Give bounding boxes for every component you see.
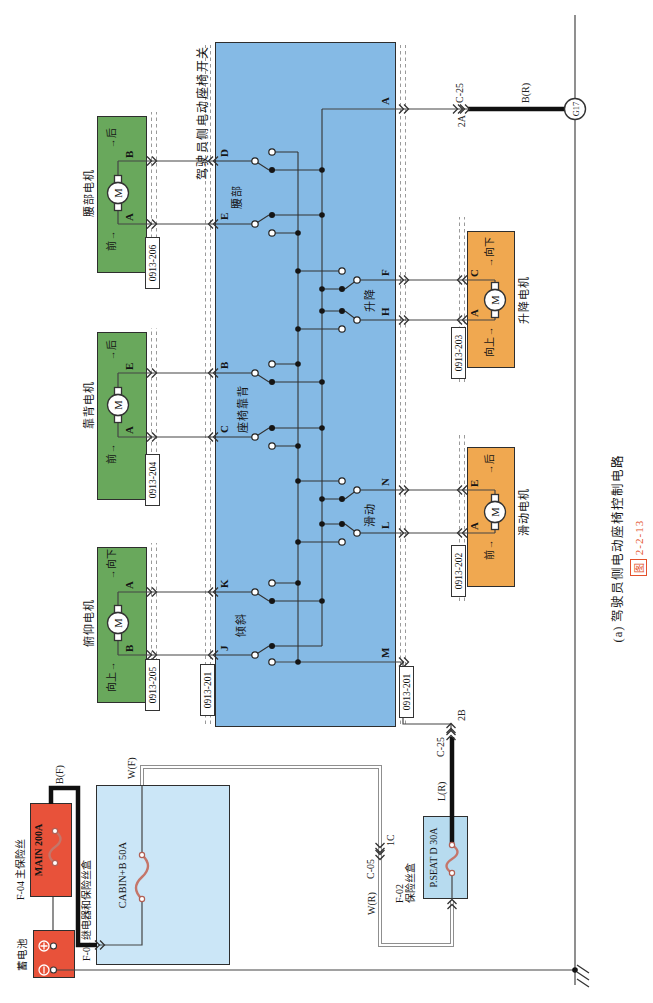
wire-label-wf: W(F) xyxy=(126,757,137,779)
relay-box-fuse-name: CABIN+B 50A xyxy=(117,805,129,945)
wire-label-br: B(R) xyxy=(520,83,531,103)
seat-switch-title: 驾驶员侧电动座椅开关 xyxy=(197,45,210,305)
dir-arrow-icon: → xyxy=(107,138,117,149)
motor-name-lift: 升降电机 xyxy=(518,248,530,352)
battery-label: 蓄电池 xyxy=(17,922,29,986)
motor-connector-lift: 0913-203 xyxy=(451,327,466,379)
terminal-D: D xyxy=(218,149,230,157)
motor-recline-pin-B: B xyxy=(123,645,135,652)
dir-arrow-icon: → xyxy=(107,569,117,580)
motor-connector-lumbar: 0913-206 xyxy=(145,237,160,289)
seat-fuse-box-title-line1: F-02 xyxy=(394,884,405,903)
motor-name-backrest: 靠背电机 xyxy=(83,353,95,457)
dir-lumbar-rear: →后 xyxy=(103,128,118,149)
dir-recline-down: →向下 xyxy=(103,549,118,580)
main-fuse-name: MAIN 200A xyxy=(33,805,44,895)
battery-symbols xyxy=(39,941,57,975)
figure-caption: (a) 驾驶员侧电动座椅控制电路 xyxy=(607,393,626,703)
dir-backrest-front: 前→ xyxy=(103,443,118,503)
dir-arrow-icon: → xyxy=(485,326,495,337)
dir-backrest-rear: →后 xyxy=(103,340,118,361)
dir-arrow-icon: → xyxy=(485,464,495,475)
diagram-stage: M M M M M G17 xyxy=(0,0,653,1003)
connector-c25-seat-name: C-25 xyxy=(435,737,446,757)
relay-box-title: F-01 继电器和保险丝盒 xyxy=(81,860,92,961)
wiring-svg: M M M M M G17 xyxy=(0,0,653,1003)
dir-lumbar-front: 前→ xyxy=(103,230,118,290)
switch-connector-label-top: 0913-201 xyxy=(200,664,215,716)
motor-name-slide: 滑动电机 xyxy=(518,460,530,564)
terminal-B: B xyxy=(218,362,230,369)
terminal-N: N xyxy=(379,478,391,486)
motor-connector-recline-text: 0913-205 xyxy=(148,667,158,703)
motor-connector-backrest: 0913-204 xyxy=(145,454,160,506)
dir-text: 后 xyxy=(106,340,117,350)
wire-label-bf: B(F) xyxy=(54,765,65,784)
motor-m-lift: M xyxy=(490,295,501,305)
wire-label-lr: L(R) xyxy=(436,782,447,801)
terminal-A: A xyxy=(379,97,391,105)
motor-name-lumbar: 腰部电机 xyxy=(83,141,95,245)
motor-m-recline: M xyxy=(113,618,124,628)
g17-ground-point: G17 xyxy=(565,99,586,120)
dir-text: 前 xyxy=(106,241,117,251)
connector-c25-ground-pin: 2A xyxy=(456,115,467,141)
motor-recline-pin-A: A xyxy=(123,581,135,589)
contact-circles xyxy=(252,149,360,665)
dir-text: 后 xyxy=(484,454,495,464)
dir-slide-rear: →后 xyxy=(481,454,496,475)
dir-text: 后 xyxy=(106,128,117,138)
switch-group-backrest: 座椅靠背 xyxy=(237,365,249,453)
wire-label-wr: W(R) xyxy=(366,892,377,915)
switch-group-lumbar: 腰部 xyxy=(231,175,243,219)
motor-lumbar-pin-B: B xyxy=(123,151,135,158)
dir-text: 前 xyxy=(106,454,117,464)
motor-connector-lift-text: 0913-203 xyxy=(454,335,464,371)
seat-fuse-box-title-line2: 保险丝盒 xyxy=(405,863,416,903)
switch-connector-label-bottom: 0913-201 xyxy=(399,666,414,718)
dir-recline-up: 向上→ xyxy=(103,661,118,721)
figure-number: 图2-2-13 xyxy=(630,473,647,623)
dir-arrow-icon: → xyxy=(485,539,495,550)
terminal-E: E xyxy=(218,213,230,220)
connector-c25-ground-name: C-25 xyxy=(454,83,465,103)
connector-c05-pin: 1C xyxy=(385,834,396,846)
scanned-wiring-diagram-page: M M M M M G17 xyxy=(0,0,653,1003)
dir-text: 向下 xyxy=(484,237,495,257)
dir-arrow-icon: → xyxy=(107,443,117,454)
terminal-M: M xyxy=(379,648,391,658)
connector-c25-seat-pin: 2B xyxy=(456,709,467,721)
motor-connector-slide: 0913-202 xyxy=(451,545,466,597)
motor-slide-pin-A: A xyxy=(468,522,480,530)
terminal-J: J xyxy=(218,646,230,652)
motor-connector-slide-text: 0913-202 xyxy=(454,553,464,589)
terminal-F: F xyxy=(379,269,391,276)
motor-lumbar-pin-A: A xyxy=(123,213,135,221)
motor-m-backrest: M xyxy=(113,400,124,410)
motor-symbols: M M M M M xyxy=(108,176,506,641)
dir-text: 向上 xyxy=(106,672,117,692)
seat-fuse-name: P.SEAT D 30A xyxy=(428,818,439,897)
g17-label: G17 xyxy=(571,102,581,117)
motor-backrest-pin-E: E xyxy=(123,363,135,370)
switch-connector-top-text: 0913-201 xyxy=(203,672,213,708)
motor-slide-pin-E: E xyxy=(468,480,480,487)
dir-lift-down: →向下 xyxy=(481,237,496,268)
motor-connector-lumbar-text: 0913-206 xyxy=(148,245,158,281)
switch-group-slide: 滑动 xyxy=(364,493,376,537)
figure-tag-char: 图 xyxy=(630,559,647,576)
motor-name-recline: 俯仰电机 xyxy=(83,571,95,675)
motor-lift-pin-C: C xyxy=(468,269,480,277)
junction-dots xyxy=(269,167,578,973)
ground-symbol-icon xyxy=(577,965,589,987)
dir-arrow-icon: → xyxy=(107,350,117,361)
motor-m-slide: M xyxy=(490,507,501,517)
motor-connector-backrest-text: 0913-204 xyxy=(148,462,158,498)
motor-m-lumbar: M xyxy=(113,188,124,198)
switch-group-tilt: 倾斜 xyxy=(235,603,247,647)
dir-text: 前 xyxy=(484,550,495,560)
motor-connector-recline: 0913-205 xyxy=(145,659,160,711)
motor-backrest-pin-A: A xyxy=(123,426,135,434)
connector-c05-name: C-05 xyxy=(365,859,376,879)
terminal-C: C xyxy=(218,425,230,433)
